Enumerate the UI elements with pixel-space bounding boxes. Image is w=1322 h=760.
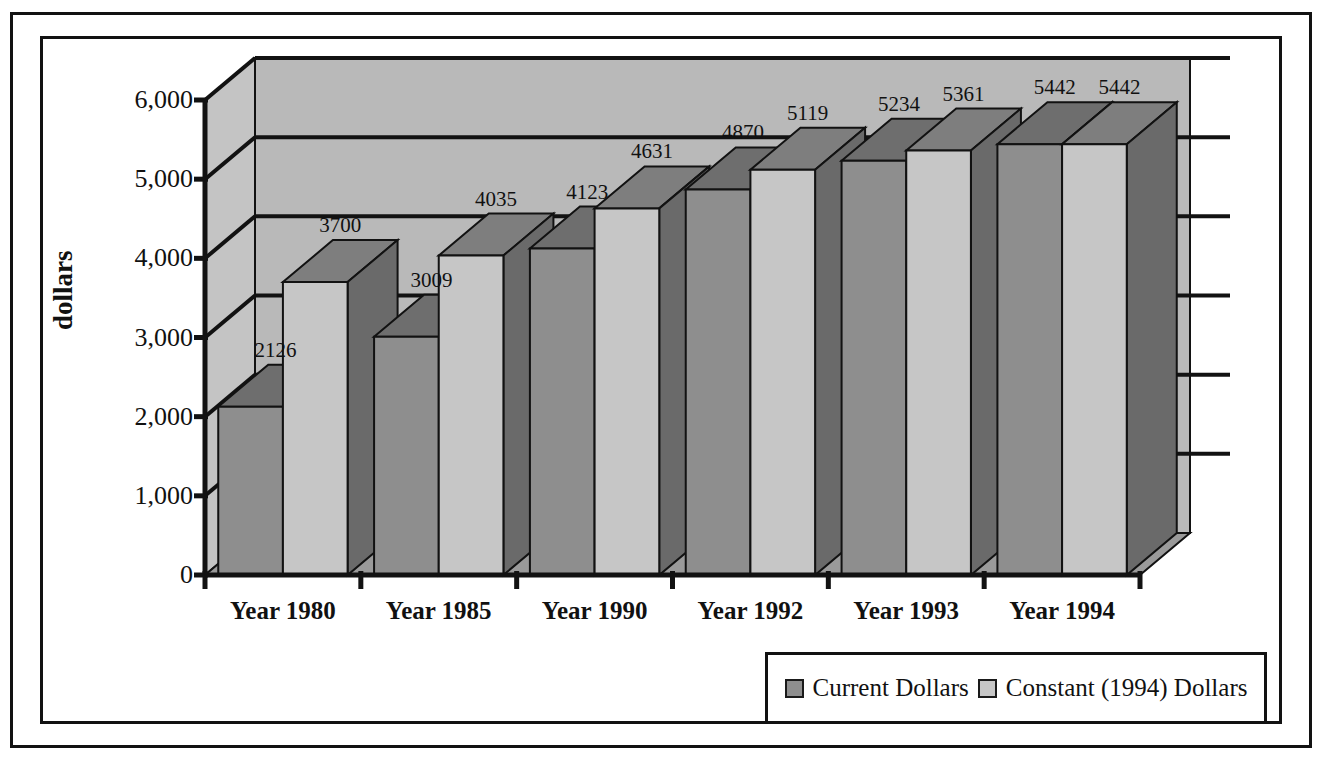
bar-value-label: 3700 xyxy=(283,213,398,238)
x-axis-category-label: Year 1993 xyxy=(828,597,984,625)
chart-legend: Current Dollars Constant (1994) Dollars xyxy=(765,652,1267,724)
x-axis-category-label: Year 1992 xyxy=(673,597,829,625)
bar-value-label: 5442 xyxy=(1062,75,1177,100)
y-axis-tick-label: 0 xyxy=(45,560,193,590)
chart-stage: 01,0002,0003,0004,0005,0006,000 dollars … xyxy=(0,0,1322,760)
y-axis-title: dollars xyxy=(48,250,79,330)
bar-value-label: 4123 xyxy=(530,180,645,205)
legend-swatch-constant-dollars xyxy=(978,679,997,698)
x-axis-category-label: Year 1990 xyxy=(517,597,673,625)
legend-swatch-current-dollars xyxy=(785,679,804,698)
legend-item-current-dollars: Current Dollars xyxy=(785,674,969,702)
bar-value-label: 2126 xyxy=(218,338,333,363)
bar-chart-plot xyxy=(0,0,1322,760)
y-axis-tick-label: 6,000 xyxy=(45,85,193,115)
y-axis-tick-label: 5,000 xyxy=(45,164,193,194)
x-axis-category-label: Year 1994 xyxy=(984,597,1140,625)
y-axis-tick-label: 1,000 xyxy=(45,481,193,511)
legend-item-constant-dollars: Constant (1994) Dollars xyxy=(978,674,1248,702)
legend-label-current-dollars: Current Dollars xyxy=(813,674,969,702)
y-axis-tick-label: 2,000 xyxy=(45,402,193,432)
bar-value-label: 3009 xyxy=(374,268,489,293)
legend-label-constant-dollars: Constant (1994) Dollars xyxy=(1006,674,1248,702)
x-axis-category-label: Year 1985 xyxy=(361,597,517,625)
x-axis-category-label: Year 1980 xyxy=(205,597,361,625)
